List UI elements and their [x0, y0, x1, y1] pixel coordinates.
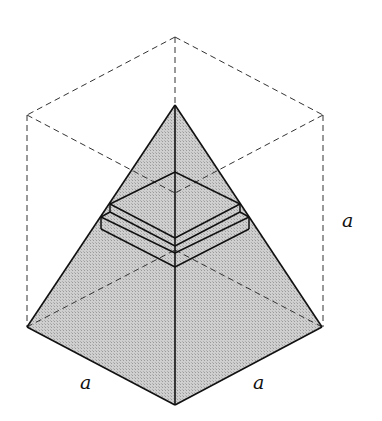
- base-right-edge-label: a: [253, 371, 264, 393]
- pyramid-cube-diagram: a a a: [0, 0, 382, 421]
- height-edge-label: a: [342, 209, 353, 231]
- base-left-edge-label: a: [80, 371, 91, 393]
- pyramid-edges: [27, 105, 322, 405]
